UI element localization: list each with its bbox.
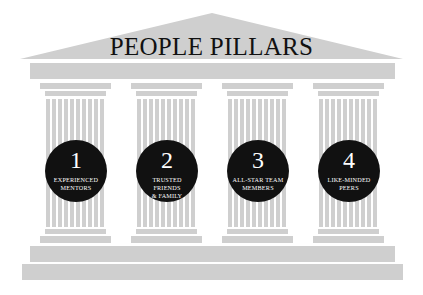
foundation-step-lower	[22, 264, 403, 280]
pillar-number: 4	[318, 148, 380, 172]
capital-lower	[45, 91, 106, 96]
column-base-lower	[40, 236, 111, 243]
column-base-upper	[45, 229, 106, 234]
foundation-step-upper	[30, 246, 395, 262]
capital-lower	[136, 91, 197, 96]
pillar-4: 4 LIKE-MINDED PEERS	[303, 80, 395, 250]
column-base-upper	[318, 229, 379, 234]
pillar-badge: 4 LIKE-MINDED PEERS	[318, 140, 380, 202]
pillar-2: 2 TRUSTED FRIENDS & FAMILY	[121, 80, 213, 250]
pillar-label-line2: MENTORS	[45, 184, 107, 192]
capital-top	[313, 83, 384, 89]
capital-lower	[318, 91, 379, 96]
pillar-badge: 1 EXPERIENCED MENTORS	[45, 140, 107, 202]
capital-top	[40, 83, 111, 89]
pillar-label-line1: TRUSTED FRIENDS	[136, 176, 198, 192]
column-base-lower	[313, 236, 384, 243]
pillar-label-line1: EXPERIENCED	[45, 176, 107, 184]
pillar-label-line1: LIKE-MINDED	[318, 176, 380, 184]
pillar-3: 3 ALL-STAR TEAM MEMBERS	[212, 80, 304, 250]
column-base-upper	[227, 229, 288, 234]
pillar-label-line1: ALL-STAR TEAM	[227, 176, 289, 184]
pillar-number: 2	[136, 148, 198, 172]
pillar-badge: 3 ALL-STAR TEAM MEMBERS	[227, 140, 289, 202]
column-base-lower	[222, 236, 293, 243]
capital-top	[131, 83, 202, 89]
column-base-upper	[136, 229, 197, 234]
pillar-label-line2: PEERS	[318, 184, 380, 192]
column-base-lower	[131, 236, 202, 243]
pillar-number: 3	[227, 148, 289, 172]
pillar-1: 1 EXPERIENCED MENTORS	[30, 80, 122, 250]
pillar-number: 1	[45, 148, 107, 172]
pillar-label-line2: & FAMILY	[136, 192, 198, 200]
pillar-label-line2: MEMBERS	[227, 184, 289, 192]
capital-lower	[227, 91, 288, 96]
diagram-title: PEOPLE PILLARS	[0, 34, 423, 60]
pillar-badge: 2 TRUSTED FRIENDS & FAMILY	[136, 140, 198, 202]
capital-top	[222, 83, 293, 89]
